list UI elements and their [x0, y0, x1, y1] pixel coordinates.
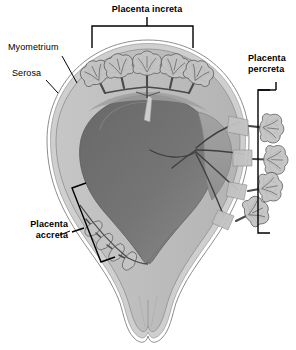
figure-canvas: Placenta increta Placenta percreta Place…: [0, 0, 296, 350]
label-serosa: Serosa: [12, 68, 41, 79]
serosa-leader-line: [46, 80, 58, 93]
label-placenta-accreta-line1: Placenta: [0, 219, 68, 230]
label-placenta-percreta-line1: Placenta: [248, 53, 286, 64]
label-placenta-percreta-line2: percreta: [248, 64, 284, 75]
label-placenta-increta: Placenta increta: [78, 4, 216, 15]
label-placenta-accreta-line2: accreta: [0, 230, 68, 241]
label-myometrium: Myometrium: [8, 42, 59, 53]
